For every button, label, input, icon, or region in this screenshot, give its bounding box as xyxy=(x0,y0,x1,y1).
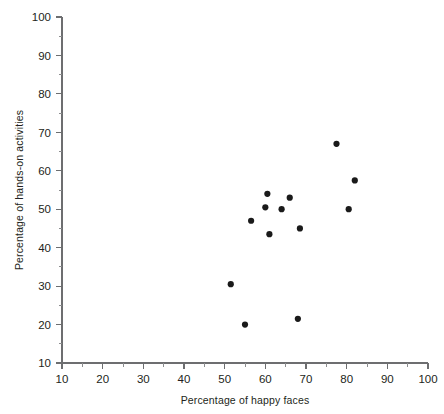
y-axis-tick-label: 10 xyxy=(38,357,51,369)
scatter-point xyxy=(333,141,339,147)
y-axis-tick-label: 100 xyxy=(32,11,51,23)
scatter-point xyxy=(266,231,272,237)
scatter-point xyxy=(242,321,248,327)
y-axis-tick-label: 40 xyxy=(38,242,51,254)
scatter-point xyxy=(352,177,358,183)
y-axis-tick-label: 90 xyxy=(38,50,51,62)
x-axis-tick-label: 40 xyxy=(178,373,191,385)
chart-canvas: 102030405060708090100 102030405060708090… xyxy=(0,0,444,414)
x-axis xyxy=(62,363,428,369)
x-axis-tick-label: 90 xyxy=(381,373,394,385)
y-axis-tick-label: 80 xyxy=(38,88,51,100)
y-axis xyxy=(56,17,62,363)
x-axis-tick-label: 80 xyxy=(340,373,353,385)
y-axis-tick-label: 20 xyxy=(38,319,51,331)
x-axis-tick-label: 60 xyxy=(259,373,272,385)
x-axis-tick-label: 70 xyxy=(300,373,313,385)
y-axis-tick-label: 50 xyxy=(38,203,51,215)
scatter-point xyxy=(346,206,352,212)
x-axis-tick-label: 10 xyxy=(56,373,69,385)
x-axis-tick-labels: 102030405060708090100 xyxy=(56,373,438,385)
scatter-point xyxy=(228,281,234,287)
scatter-point xyxy=(295,316,301,322)
scatter-point xyxy=(248,218,254,224)
scatter-point xyxy=(262,204,268,210)
x-axis-tick-label: 100 xyxy=(418,373,437,385)
scatter-plot-figure: 102030405060708090100 102030405060708090… xyxy=(0,0,444,414)
x-axis-title: Percentage of happy faces xyxy=(181,394,310,406)
x-axis-tick-label: 30 xyxy=(137,373,150,385)
y-axis-tick-label: 70 xyxy=(38,127,51,139)
y-axis-tick-labels: 102030405060708090100 xyxy=(32,11,51,369)
scatter-point xyxy=(279,206,285,212)
y-axis-title: Percentage of hands-on activities xyxy=(13,110,25,270)
x-axis-tick-label: 50 xyxy=(218,373,231,385)
y-axis-tick-label: 30 xyxy=(38,280,51,292)
data-points-layer xyxy=(228,141,358,328)
x-axis-tick-label: 20 xyxy=(96,373,109,385)
scatter-point xyxy=(287,195,293,201)
y-axis-tick-label: 60 xyxy=(38,165,51,177)
scatter-point xyxy=(297,225,303,231)
scatter-point xyxy=(264,191,270,197)
